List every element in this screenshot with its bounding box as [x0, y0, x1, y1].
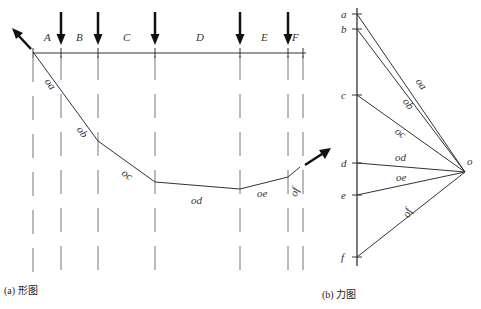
ray-oe	[357, 172, 465, 195]
load-arrow-4	[236, 12, 245, 45]
point-label-f: f	[341, 251, 346, 263]
reaction-arrow-left	[12, 28, 31, 49]
segment-label-c: C	[123, 31, 131, 43]
load-arrow-2	[94, 12, 103, 45]
caption-shape-diagram: (a) 形图	[4, 285, 38, 297]
string-label-oc: oc	[120, 166, 135, 182]
ray-label-od: od	[395, 151, 407, 163]
point-label-b: b	[341, 23, 347, 35]
segment-label-b: B	[76, 31, 83, 43]
vertical-dashed-lines	[33, 56, 303, 276]
reaction-arrow-right	[305, 148, 331, 165]
string-label-od: od	[191, 194, 203, 206]
diagram-canvas: A B C D E F oa ob oc od oe of (a) 形图	[0, 0, 481, 309]
string-label-oa: oa	[43, 76, 59, 92]
ray-label-oe: oe	[396, 171, 407, 183]
point-label-e: e	[341, 189, 346, 201]
point-label-a: a	[341, 8, 347, 20]
point-label-d: d	[341, 157, 347, 169]
ray-od	[357, 163, 465, 172]
ray-label-oa: oa	[414, 76, 430, 92]
string-label-ob: ob	[75, 124, 91, 140]
ray-label-oc: oc	[393, 125, 409, 141]
segment-label-d: D	[195, 31, 204, 43]
string-label-oe: oe	[257, 187, 268, 199]
ray-oa	[357, 14, 465, 172]
ray-label-of: of	[400, 204, 415, 219]
force-diagram: a b c d e f o oa ob oc od oe of (b) 力图	[322, 8, 473, 301]
load-arrow-3	[151, 12, 160, 45]
rays	[357, 14, 465, 257]
funicular-polygon	[33, 52, 300, 189]
caption-force-diagram: (b) 力图	[322, 288, 356, 301]
pole-label-o: o	[467, 155, 473, 167]
segment-label-a: A	[43, 31, 51, 43]
shape-diagram: A B C D E F oa ob oc od oe of (a) 形图	[4, 12, 331, 297]
segment-label-e: E	[260, 31, 268, 43]
load-arrows	[57, 12, 293, 45]
load-arrow-1	[57, 12, 66, 45]
string-label-of: of	[287, 184, 302, 198]
point-label-c: c	[341, 89, 346, 101]
segment-label-f: F	[291, 31, 299, 43]
